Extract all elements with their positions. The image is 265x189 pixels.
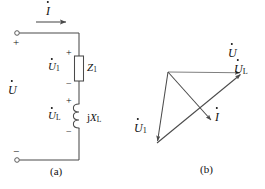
phasor-i-arrow <box>168 72 211 120</box>
polarity-xl-bottom: − <box>66 127 72 137</box>
label-z1-voltage: U1 <box>48 61 60 73</box>
label-source-voltage: U <box>8 84 17 96</box>
terminal-bottom-node <box>15 158 20 163</box>
polarity-terminal-bottom: − <box>13 146 19 157</box>
label-impedance-z1: Z1 <box>87 62 97 74</box>
phasor-dot-icon <box>137 118 139 120</box>
caption-panel-b: (b) <box>200 164 213 175</box>
phasor-dot-icon <box>231 43 233 45</box>
label-current-circuit: I <box>46 5 50 17</box>
phasor-diagram <box>157 72 241 143</box>
impedance-z1-box <box>75 56 84 81</box>
phasor-dot-icon <box>51 58 53 60</box>
caption-panel-a: (a) <box>50 166 62 177</box>
label-phasor-i: I <box>215 111 219 123</box>
polarity-z1-top: + <box>66 48 72 58</box>
label-phasor-ul: UL <box>234 63 248 76</box>
polarity-xl-top: + <box>66 96 72 106</box>
polarity-terminal-top: + <box>13 37 19 48</box>
phasor-dot-icon <box>11 80 13 82</box>
inductor-coil <box>73 104 79 128</box>
label-inductor-voltage: UL <box>48 110 61 122</box>
phasor-ul-arrow <box>157 75 241 144</box>
phasor-dot-icon <box>51 107 53 109</box>
label-inductor-reactance: jXL <box>87 112 101 124</box>
terminal-top-node <box>15 31 20 36</box>
label-phasor-u1: U1 <box>134 122 147 135</box>
circuit-schematic <box>15 22 84 162</box>
figure-canvas <box>0 0 265 189</box>
phasor-dot-icon <box>237 59 239 61</box>
polarity-z1-bottom: − <box>66 79 72 89</box>
label-phasor-u: U <box>228 47 237 59</box>
phasor-dot-icon <box>216 107 218 109</box>
phasor-dot-icon <box>47 1 49 3</box>
phasor-u1-arrow <box>158 72 168 141</box>
phasor-u-arrow <box>168 72 240 73</box>
